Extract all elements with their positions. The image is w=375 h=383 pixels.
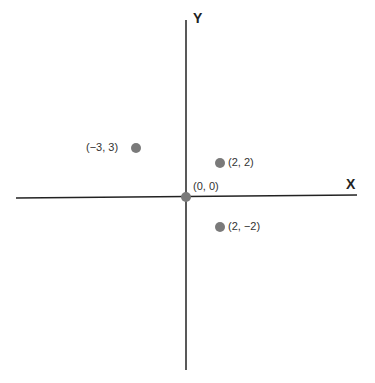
label-neg3-3: (−3, 3) <box>86 141 118 153</box>
y-axis-label: Y <box>193 10 202 26</box>
point-2-neg2 <box>215 222 225 232</box>
label-2-2: (2, 2) <box>228 156 254 168</box>
point-2-2 <box>215 158 225 168</box>
point-origin <box>181 192 191 202</box>
coordinate-plane <box>0 0 375 383</box>
label-origin: (0, 0) <box>193 180 219 192</box>
x-axis-label: X <box>346 176 355 192</box>
point-neg3-3 <box>131 143 141 153</box>
label-2-neg2: (2, −2) <box>228 220 260 232</box>
